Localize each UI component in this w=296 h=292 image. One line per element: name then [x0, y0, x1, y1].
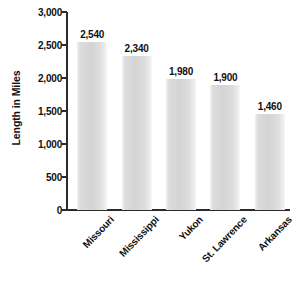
x-axis-tick-label: Mississippi [117, 214, 161, 259]
y-axis-tick-mark [61, 77, 67, 79]
y-axis-tick-label: 2,000 [24, 73, 62, 84]
x-axis-tick-label: Yukon [177, 214, 205, 243]
bar-value-label: 2,540 [80, 29, 104, 40]
x-axis-tick-label: Arkansas [256, 214, 294, 253]
bar-slot: 1,460 [255, 12, 285, 210]
bar-value-label: 1,980 [169, 66, 193, 77]
bar[interactable] [122, 56, 152, 210]
bar-slot: 1,980 [166, 12, 196, 210]
y-axis-tick-mark [61, 44, 67, 46]
bar-slot: 2,340 [122, 12, 152, 210]
bar-chart: Length in Miles 05001,0001,5002,0002,500… [0, 0, 296, 292]
y-axis-tick-mark [61, 209, 67, 211]
plot-area: 2,5402,3401,9801,9001,460 [68, 12, 290, 210]
x-axis-tick-label: St. Lawrence [200, 214, 249, 264]
y-axis-tick-label: 1,000 [24, 139, 62, 150]
bar-slot: 1,900 [210, 12, 240, 210]
y-axis-tick-label: 2,500 [24, 40, 62, 51]
y-axis-tick-mark [61, 143, 67, 145]
bar-value-label: 1,900 [213, 72, 237, 83]
y-axis-tick-label: 1,500 [24, 106, 62, 117]
y-axis-tick-mark [61, 110, 67, 112]
y-axis-tick-mark [61, 176, 67, 178]
bar-value-label: 2,340 [125, 43, 149, 54]
x-axis-tick-labels: MissouriMississippiYukonSt. LawrenceArka… [68, 212, 296, 292]
bar[interactable] [210, 85, 240, 210]
bar[interactable] [166, 79, 196, 210]
y-axis-tick-labels: 05001,0001,5002,0002,5003,000 [24, 12, 62, 210]
bar[interactable] [255, 114, 285, 210]
y-axis-tick-label: 500 [24, 172, 62, 183]
bar-value-label: 1,460 [258, 101, 282, 112]
y-axis-tick-label: 3,000 [24, 7, 62, 18]
bar-slot: 2,540 [77, 12, 107, 210]
y-axis-tick-mark [61, 11, 67, 13]
x-axis-tick-label: Missouri [81, 214, 116, 250]
bar[interactable] [77, 42, 107, 210]
y-axis-title-text: Length in Miles [10, 70, 22, 145]
y-axis-tick-label: 0 [24, 205, 62, 216]
